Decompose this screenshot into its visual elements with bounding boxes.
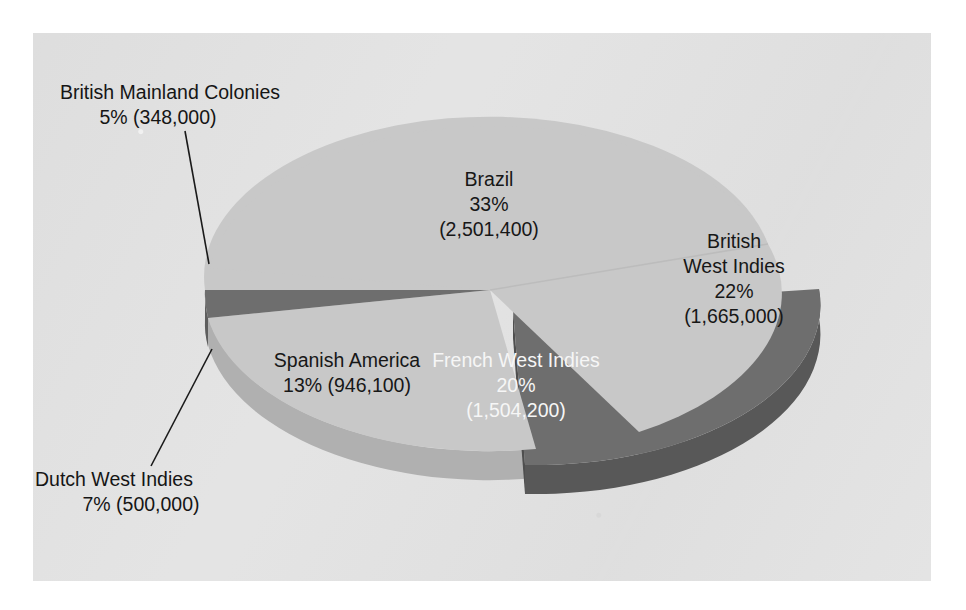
pie-chart: Brazil 33% (2,501,400) British West Indi… [0, 0, 966, 610]
label-spanish-line2: 13% (946,100) [283, 374, 411, 396]
label-dutch-west-indies: Dutch West Indies 7% (500,000) [35, 468, 200, 515]
label-brazil-line3: (2,501,400) [439, 218, 539, 240]
label-bmc-line1: British Mainland Colonies [60, 81, 280, 103]
label-bwi-line1: British [707, 230, 761, 252]
label-spanish-line1: Spanish America [274, 349, 420, 371]
label-dutch-line1: Dutch West Indies [35, 468, 193, 490]
label-british-mainland-colonies: British Mainland Colonies 5% (348,000) [60, 81, 280, 128]
chart-page: Brazil 33% (2,501,400) British West Indi… [0, 0, 966, 610]
leader-british-mainland-colonies [185, 131, 209, 264]
label-bwi-line3: 22% [714, 280, 753, 302]
label-brazil-line2: 33% [469, 193, 508, 215]
label-fwi-line3: (1,504,200) [466, 399, 566, 421]
label-bwi-line2: West Indies [683, 255, 785, 277]
leader-dutch-west-indies [151, 349, 212, 466]
label-bwi-line4: (1,665,000) [684, 305, 784, 327]
label-bmc-line2: 5% (348,000) [99, 106, 216, 128]
label-fwi-line1: French West Indies [432, 349, 600, 371]
label-fwi-line2: 20% [496, 374, 535, 396]
label-dutch-line2: 7% (500,000) [82, 493, 199, 515]
label-brazil-line1: Brazil [465, 168, 514, 190]
